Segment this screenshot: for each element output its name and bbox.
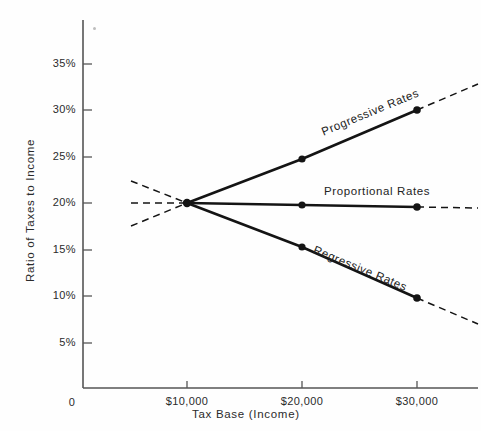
data-point-proportional-30k <box>413 203 421 211</box>
data-point-progressive-30k <box>413 106 421 114</box>
origin-label: 0 <box>58 396 86 408</box>
x-axis-title: Tax Base (Income) <box>192 408 300 420</box>
y-tick-label-30: 30% <box>30 103 76 115</box>
data-point-regressive-30k <box>413 294 421 302</box>
x-axis-ticks <box>187 381 417 388</box>
y-tick-label-20: 20% <box>30 196 76 208</box>
y-tick-label-35: 35% <box>30 57 76 69</box>
progressive-dashed-left <box>131 203 187 226</box>
data-point-proportional-20k <box>298 201 305 208</box>
y-axis-title: Ratio of Taxes to Income <box>24 139 36 282</box>
tax-rate-chart: 35% 30% 25% 20% 15% 10% 5% $10,000 $20,0… <box>0 0 481 431</box>
y-tick-label-15: 15% <box>30 243 76 255</box>
progressive-dashed-right <box>417 84 478 110</box>
data-point-convergence <box>183 199 191 207</box>
x-tick-label-30000: $30,000 <box>377 395 457 407</box>
x-tick-label-10000: $10,000 <box>147 395 227 407</box>
x-tick-label-20000: $20,000 <box>262 395 342 407</box>
y-tick-label-25: 25% <box>30 150 76 162</box>
regressive-dashed-right <box>417 298 478 324</box>
proportional-dashed-right <box>417 207 478 208</box>
y-axis-ticks <box>83 64 92 343</box>
y-tick-label-10: 10% <box>30 289 76 301</box>
data-point-progressive-20k <box>298 155 305 162</box>
y-tick-label-5: 5% <box>30 336 76 348</box>
series-label-proportional: Proportional Rates <box>324 185 430 197</box>
regressive-dashed-left <box>131 181 187 203</box>
data-point-regressive-20k <box>298 243 305 250</box>
